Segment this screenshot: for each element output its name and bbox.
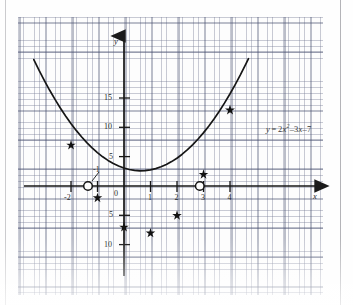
equation-equals: = [271, 124, 276, 134]
star-marker [172, 210, 182, 219]
y-tick-label-15: 15 [104, 94, 112, 102]
y-tick-label--10: 10 [104, 241, 112, 249]
equation-lhs: y [266, 124, 270, 134]
x-tick-label-2: 2 [175, 194, 179, 202]
origin-label: 0 [114, 190, 118, 198]
graph-plot [0, 0, 353, 305]
star-marker [93, 193, 103, 202]
root-marker-left [84, 182, 93, 191]
y-tick-label-10: 10 [104, 123, 112, 131]
x-tick-label--2: -2 [64, 194, 71, 202]
equation-annotation: y=2x2–3x–7 [266, 123, 311, 133]
y-tick-label--5: 5 [109, 211, 113, 219]
star-marker [199, 169, 209, 178]
x-tick-label-1: 1 [148, 194, 152, 202]
star-marker [146, 228, 156, 237]
star-marker [66, 140, 76, 149]
y-axis-label: y [114, 37, 118, 46]
x-tick-label-4: 4 [228, 194, 232, 202]
root-marker-right [196, 182, 205, 191]
x-axis-label: x [313, 192, 317, 201]
x-tick-label--1: -1 [93, 166, 100, 174]
star-marker [225, 105, 235, 115]
scanned-page: y x -2 -1 1 2 3 4 0 15 10 5 5 10 y=2x2–3… [0, 0, 353, 305]
x-tick-label-3: 3 [201, 194, 205, 202]
y-tick-label-5: 5 [109, 153, 113, 161]
parabola-curve-line [34, 59, 249, 171]
